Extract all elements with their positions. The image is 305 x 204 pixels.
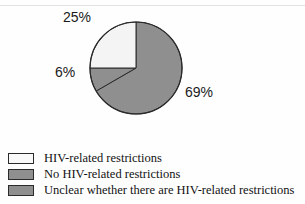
legend-swatch-hiv-restrictions [8,153,34,164]
pie-chart-area: 25% 6% 69% [0,0,305,140]
chart-legend: HIV-related restrictions No HIV-related … [8,150,303,198]
pie-slice-hiv-restrictions-25 [90,22,136,68]
legend-item-no-hiv-restrictions: No HIV-related restrictions [8,166,303,182]
legend-label-no-hiv-restrictions: No HIV-related restrictions [44,166,180,182]
legend-item-unclear-restrictions: Unclear whether there are HIV-related re… [8,182,303,198]
legend-label-unclear-restrictions: Unclear whether there are HIV-related re… [44,182,294,198]
legend-item-hiv-restrictions: HIV-related restrictions [8,150,303,166]
pie-label-25-percent: 25% [63,9,91,25]
pie-chart-svg [88,16,184,120]
legend-label-hiv-restrictions: HIV-related restrictions [44,150,162,166]
legend-swatch-unclear-restrictions [8,185,34,196]
legend-swatch-no-hiv-restrictions [8,169,34,180]
chart-figure: 25% 6% 69% HIV-related restrictions No H… [0,0,305,204]
pie-label-69-percent: 69% [185,84,213,100]
pie-label-6-percent: 6% [55,64,75,80]
